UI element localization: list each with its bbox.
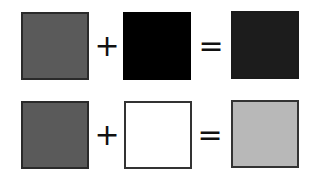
equals-sign: = — [196, 31, 226, 61]
gray-square — [21, 12, 89, 80]
light-result-square — [231, 100, 299, 168]
equals-sign: = — [195, 120, 225, 150]
gray-square — [21, 101, 89, 169]
black-square — [123, 12, 191, 80]
plus-sign: + — [92, 31, 122, 61]
dark-result-square — [231, 11, 299, 79]
white-square — [124, 101, 192, 169]
plus-sign: + — [92, 120, 122, 150]
